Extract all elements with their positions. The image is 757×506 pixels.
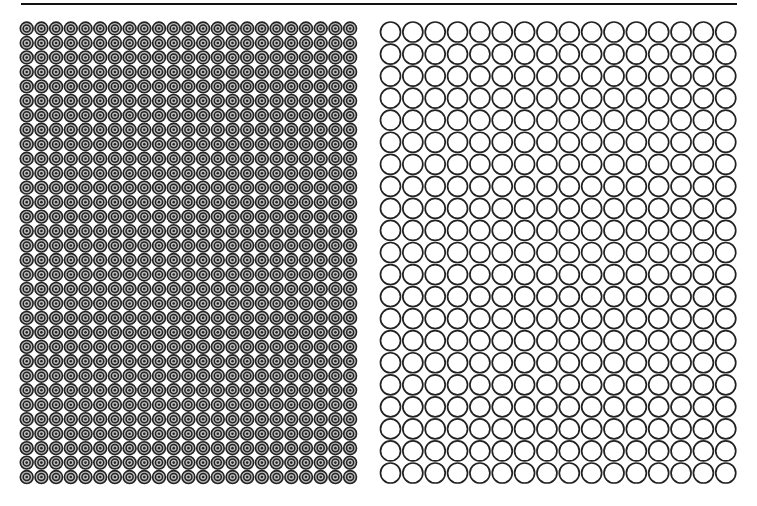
- circle-icon: [403, 441, 423, 461]
- target-icon: [285, 94, 298, 107]
- target-icon: [167, 152, 180, 165]
- target-icon: [314, 66, 327, 79]
- target-icon: [109, 109, 122, 122]
- circle-icon: [515, 331, 535, 351]
- target-icon: [256, 471, 269, 484]
- target-icon: [79, 123, 92, 136]
- circle-icon: [381, 132, 401, 152]
- target-icon: [109, 225, 122, 238]
- circle-icon: [515, 132, 535, 152]
- target-icon: [167, 210, 180, 223]
- circle-icon: [470, 22, 490, 42]
- target-icon: [270, 456, 283, 469]
- target-icon: [167, 123, 180, 136]
- target-icon: [182, 94, 195, 107]
- target-icon: [241, 51, 254, 64]
- target-icon: [79, 254, 92, 267]
- circle-icon: [515, 309, 535, 329]
- circle-icon: [515, 176, 535, 196]
- circle-icon: [448, 397, 468, 417]
- target-icon: [226, 109, 239, 122]
- target-icon: [270, 355, 283, 368]
- target-icon: [256, 152, 269, 165]
- circle-icon: [515, 397, 535, 417]
- circle-icon: [492, 287, 512, 307]
- target-icon: [270, 181, 283, 194]
- circle-icon: [671, 66, 691, 86]
- target-icon: [241, 326, 254, 339]
- target-icon: [256, 283, 269, 296]
- target-icon: [314, 109, 327, 122]
- circle-icon: [470, 243, 490, 263]
- target-icon: [270, 297, 283, 310]
- circle-icon: [671, 110, 691, 130]
- circle-icon: [425, 441, 445, 461]
- target-icon: [211, 471, 224, 484]
- target-icon: [35, 138, 48, 151]
- target-icon: [79, 181, 92, 194]
- target-icon: [226, 51, 239, 64]
- target-icon: [94, 369, 107, 382]
- circle-icon: [559, 331, 579, 351]
- target-icon: [256, 109, 269, 122]
- target-icon: [300, 181, 313, 194]
- circle-icon: [381, 331, 401, 351]
- target-icon: [270, 413, 283, 426]
- hollow-circle-grid: [381, 22, 736, 483]
- target-icon: [153, 297, 166, 310]
- target-icon: [197, 384, 210, 397]
- target-icon: [109, 254, 122, 267]
- circle-icon: [716, 243, 736, 263]
- circle-icon: [582, 265, 602, 285]
- target-icon: [64, 152, 77, 165]
- circle-icon: [403, 88, 423, 108]
- circle-icon: [559, 287, 579, 307]
- target-icon: [109, 369, 122, 382]
- target-icon: [138, 297, 151, 310]
- target-icon: [94, 442, 107, 455]
- target-icon: [314, 196, 327, 209]
- target-icon: [197, 196, 210, 209]
- target-icon: [94, 196, 107, 209]
- target-icon: [20, 369, 33, 382]
- target-icon: [197, 427, 210, 440]
- target-icon: [241, 369, 254, 382]
- target-icon: [241, 254, 254, 267]
- circle-icon: [671, 265, 691, 285]
- target-icon: [300, 80, 313, 93]
- circle-icon: [604, 110, 624, 130]
- circle-icon: [559, 375, 579, 395]
- target-icon: [211, 138, 224, 151]
- target-icon: [314, 427, 327, 440]
- target-icon: [153, 37, 166, 50]
- circle-icon: [470, 132, 490, 152]
- target-icon: [64, 283, 77, 296]
- circle-icon: [671, 331, 691, 351]
- circle-icon: [515, 419, 535, 439]
- circle-icon: [626, 397, 646, 417]
- circle-icon: [381, 66, 401, 86]
- target-icon: [211, 326, 224, 339]
- target-icon: [35, 239, 48, 252]
- target-icon: [256, 340, 269, 353]
- target-icon: [344, 355, 357, 368]
- target-icon: [64, 37, 77, 50]
- target-icon: [300, 138, 313, 151]
- target-icon: [94, 22, 107, 35]
- target-icon: [167, 196, 180, 209]
- target-icon: [153, 196, 166, 209]
- circle-icon: [448, 309, 468, 329]
- target-icon: [256, 80, 269, 93]
- circle-icon: [626, 88, 646, 108]
- circle-icon: [671, 88, 691, 108]
- figure-canvas: [0, 0, 757, 506]
- target-icon: [241, 283, 254, 296]
- target-icon: [270, 268, 283, 281]
- target-icon: [256, 297, 269, 310]
- target-icon: [256, 312, 269, 325]
- circle-icon: [582, 66, 602, 86]
- circle-icon: [425, 287, 445, 307]
- target-icon: [182, 51, 195, 64]
- target-icon: [79, 167, 92, 180]
- circle-icon: [537, 22, 557, 42]
